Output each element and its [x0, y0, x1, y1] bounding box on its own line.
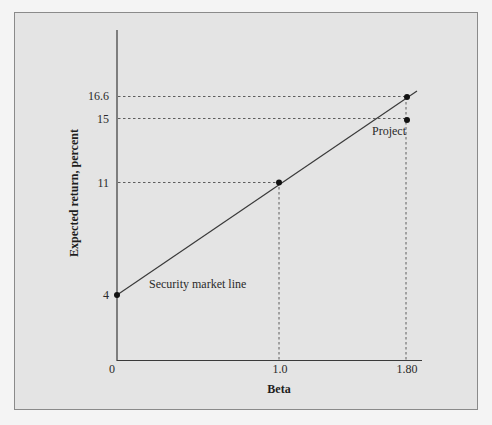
security-market-line	[117, 91, 417, 295]
chart-plot: 16.6 15 11 4 0 1.0 1.80 Beta Expected re…	[0, 0, 492, 425]
y-tick-4: 4	[103, 288, 109, 302]
y-axis-title: Expected return, percent	[67, 129, 81, 257]
x-axis-title: Beta	[267, 382, 290, 396]
sml-annotation: Security market line	[149, 277, 246, 291]
point-beta-1-8-sml	[404, 94, 410, 100]
x-tick-1-8: 1.80	[397, 362, 418, 376]
y-tick-11: 11	[97, 176, 109, 190]
reference-lines	[118, 97, 407, 361]
x-tick-0: 0	[109, 362, 115, 376]
y-tick-15: 15	[97, 112, 109, 126]
point-beta-0	[114, 292, 120, 298]
x-tick-1: 1.0	[273, 362, 288, 376]
point-beta-1	[276, 180, 282, 186]
project-annotation: Project	[372, 124, 407, 138]
point-project	[404, 117, 410, 123]
y-tick-16-6: 16.6	[88, 89, 109, 103]
